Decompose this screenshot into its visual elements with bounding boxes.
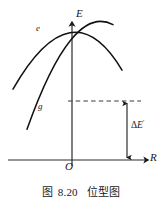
ground-state-curve-label: g — [38, 102, 43, 111]
configuration-diagram-figure: E R e g O ΔE' 图 8.20位型图 — [0, 0, 162, 209]
plot-area: E R e g O ΔE' — [0, 0, 162, 180]
excited-state-curve-label: e — [36, 24, 40, 33]
excited-state-curve — [27, 21, 113, 129]
x-axis-label: R — [150, 152, 157, 163]
prime-symbol: ' — [143, 118, 144, 126]
y-axis-label: E — [76, 8, 83, 19]
caption-title: 位型图 — [87, 186, 121, 198]
plot-canvas — [0, 0, 162, 180]
figure-caption: 图 8.20位型图 — [0, 183, 162, 199]
caption-number: 8.20 — [58, 186, 78, 198]
ground-state-curve — [13, 32, 122, 89]
energy-gap-label: ΔE' — [131, 119, 144, 131]
caption-label: 图 — [42, 186, 53, 198]
origin-label: O — [65, 161, 73, 172]
